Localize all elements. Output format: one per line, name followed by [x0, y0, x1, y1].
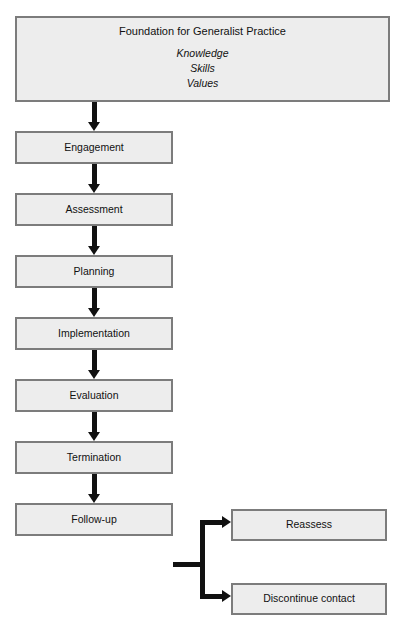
- node-implementation-label: Implementation: [58, 327, 130, 340]
- arrow-engagement-to-assessment: [88, 164, 101, 193]
- node-foundation: Foundation for Generalist Practice Knowl…: [15, 16, 390, 102]
- node-engagement-label: Engagement: [64, 141, 124, 154]
- node-evaluation-label: Evaluation: [69, 389, 118, 402]
- caption-remnant: [4, 0, 398, 5]
- branch-arrowhead-bottom: [222, 590, 231, 602]
- node-planning-label: Planning: [74, 265, 115, 278]
- foundation-attribute-skills: Skills: [190, 61, 215, 76]
- arrow-planning-to-implementation: [88, 288, 101, 317]
- arrow-evaluation-to-termination: [88, 412, 101, 441]
- foundation-attribute-knowledge: Knowledge: [177, 46, 229, 61]
- node-assessment-label: Assessment: [65, 203, 122, 216]
- node-implementation: Implementation: [15, 317, 173, 350]
- node-followup: Follow-up: [15, 503, 173, 536]
- branch-arm-top: [200, 520, 224, 525]
- node-engagement: Engagement: [15, 131, 173, 164]
- flowchart-page: Foundation for Generalist Practice Knowl…: [0, 0, 402, 620]
- node-evaluation: Evaluation: [15, 379, 173, 412]
- branch-riser: [200, 520, 205, 599]
- node-discontinue-contact: Discontinue contact: [231, 583, 387, 615]
- node-termination: Termination: [15, 441, 173, 474]
- arrow-implementation-to-evaluation: [88, 350, 101, 379]
- branch-arrowhead-top: [222, 516, 231, 528]
- foundation-attribute-values: Values: [187, 76, 219, 91]
- arrow-termination-to-followup: [88, 474, 101, 503]
- node-termination-label: Termination: [67, 451, 121, 464]
- node-reassess: Reassess: [231, 509, 387, 541]
- arrow-assessment-to-planning: [88, 226, 101, 255]
- node-discontinue-contact-label: Discontinue contact: [263, 592, 355, 605]
- node-followup-label: Follow-up: [71, 513, 117, 526]
- arrow-foundation-to-engagement: [88, 102, 101, 131]
- node-reassess-label: Reassess: [286, 518, 332, 531]
- node-assessment: Assessment: [15, 193, 173, 226]
- foundation-title: Foundation for Generalist Practice: [119, 25, 286, 39]
- branch-arm-bottom: [200, 594, 224, 599]
- node-planning: Planning: [15, 255, 173, 288]
